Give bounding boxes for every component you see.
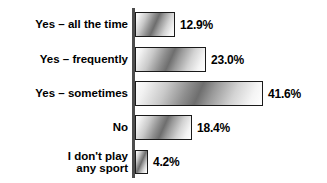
category-label-1: Yes – frequently xyxy=(0,47,128,72)
category-label-text: I don't play any sport xyxy=(68,150,128,175)
category-label-text: Yes – all the time xyxy=(35,18,128,31)
category-label-3: No xyxy=(0,115,128,140)
category-label-text: Yes – sometimes xyxy=(35,87,128,100)
bar-3 xyxy=(135,115,192,140)
bar-value-label-3: 18.4% xyxy=(197,121,230,135)
bar-0 xyxy=(135,12,175,37)
bar-value-label-0: 12.9% xyxy=(180,18,213,32)
bar-2 xyxy=(135,81,263,106)
category-label-2: Yes – sometimes xyxy=(0,81,128,106)
bar-chart: Yes – all the time 12.9% Yes – frequentl… xyxy=(0,0,327,183)
bar-4 xyxy=(135,150,148,174)
bar-value-label-1: 23.0% xyxy=(211,53,244,67)
category-label-text: Yes – frequently xyxy=(40,53,128,66)
category-label-text: No xyxy=(113,121,128,134)
category-label-0: Yes – all the time xyxy=(0,12,128,37)
bar-1 xyxy=(135,47,206,72)
bar-value-label-2: 41.6% xyxy=(268,87,301,101)
bar-value-label-4: 4.2% xyxy=(153,155,180,169)
category-label-4: I don't play any sport xyxy=(0,148,128,176)
